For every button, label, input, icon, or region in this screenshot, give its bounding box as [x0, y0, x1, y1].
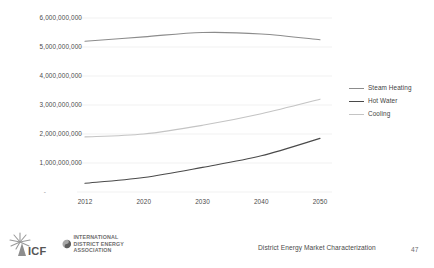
legend-item: Hot Water [349, 95, 434, 108]
legend-swatch-icon [349, 101, 364, 102]
slide-footer: ICF INTERNATIONAL DISTRICT ENERGY ASSOCI… [0, 222, 434, 268]
idea-logo-text: INTERNATIONAL DISTRICT ENERGY ASSOCIATIO… [73, 234, 124, 255]
x-axis-tick-label: 2050 [300, 199, 340, 205]
page-number: 47 [411, 246, 418, 253]
icf-logo: ICF [8, 232, 56, 258]
legend-item-label: Hot Water [368, 98, 397, 104]
legend-item-label: Steam Heating [368, 85, 412, 91]
y-axis-tick-label: 3,000,000,000 [0, 102, 82, 108]
legend-item: Steam Heating [349, 82, 434, 95]
gridline-group [77, 18, 332, 192]
y-axis-tick-label: 6,000,000,000 [0, 15, 82, 21]
y-axis-tick-label: 1,000,000,000 [0, 160, 82, 166]
footer-title: District Energy Market Characterization [258, 244, 376, 251]
legend-item: Cooling [349, 108, 434, 121]
x-axis-tick-label: 2040 [241, 199, 281, 205]
series-line-group [85, 32, 320, 183]
y-axis-tick-label: 4,000,000,000 [0, 73, 82, 79]
icf-logo-icon: ICF [8, 232, 56, 258]
y-axis-tick-label: 5,000,000,000 [0, 44, 82, 50]
idea-logo-line-1: INTERNATIONAL [73, 234, 124, 241]
legend-item-label: Cooling [368, 111, 390, 117]
y-axis-tick-label: 2,000,000,000 [0, 131, 82, 137]
idea-logo-line-2: DISTRICT ENERGY [73, 241, 124, 248]
y-axis: 6,000,000,0005,000,000,0004,000,000,0003… [0, 0, 82, 222]
series-line-hot-water [85, 138, 320, 183]
series-line-steam-heating [85, 32, 320, 41]
legend-swatch-icon [349, 88, 364, 89]
idea-logo-icon [62, 234, 71, 254]
svg-text:ICF: ICF [28, 245, 47, 257]
x-axis-tick-label: 2030 [183, 199, 223, 205]
x-axis: 20122020203020402050 [0, 199, 434, 213]
y-axis-tick-label: - [44, 189, 46, 195]
x-axis-tick-label: 2012 [65, 199, 105, 205]
chart-legend: Steam HeatingHot WaterCooling [349, 82, 434, 121]
chart-container: 6,000,000,0005,000,000,0004,000,000,0003… [0, 0, 434, 222]
legend-swatch-icon [349, 114, 364, 115]
idea-logo-line-3: ASSOCIATION [73, 247, 124, 254]
idea-logo: INTERNATIONAL DISTRICT ENERGY ASSOCIATIO… [62, 230, 124, 258]
x-axis-tick-label: 2020 [124, 199, 164, 205]
